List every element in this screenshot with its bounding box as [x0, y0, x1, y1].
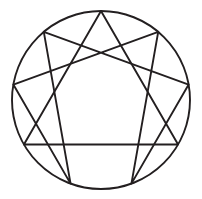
- circle-group: [12, 11, 190, 189]
- enneagram-figure: [0, 0, 202, 199]
- outer-circle: [12, 11, 190, 189]
- hexad-path-group: [13, 32, 188, 184]
- inner-triangle: [24, 11, 178, 145]
- enneagram-canvas: [0, 0, 202, 199]
- hexad-path: [13, 32, 188, 184]
- inner-triangle-group: [24, 11, 178, 145]
